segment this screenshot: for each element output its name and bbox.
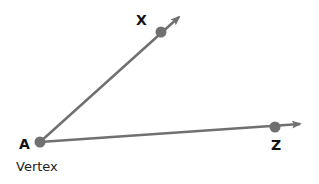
- label-a: A: [19, 137, 30, 151]
- point-a: [35, 137, 46, 148]
- ray-az: [40, 124, 300, 142]
- point-z: [270, 122, 281, 133]
- label-z: Z: [271, 138, 281, 152]
- angle-diagram: [0, 0, 319, 184]
- label-x: X: [136, 13, 147, 27]
- vertex-caption: Vertex: [16, 160, 58, 173]
- point-x: [156, 27, 167, 38]
